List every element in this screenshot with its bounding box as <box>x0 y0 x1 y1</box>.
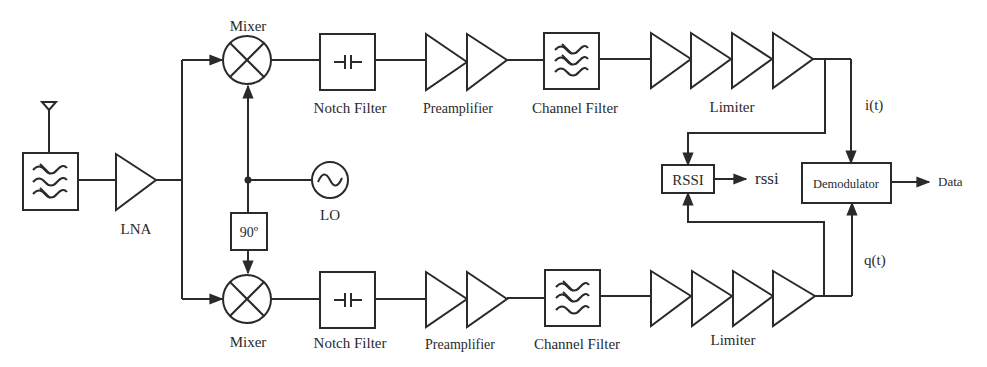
limiter-i: Limiter <box>651 33 813 115</box>
phase-shift-label: 90º <box>240 225 259 240</box>
notch-filter-i: Notch Filter <box>314 34 387 116</box>
antenna-icon <box>42 102 56 153</box>
rssi-block: RSSI <box>662 165 714 193</box>
preamplifier-q-label: Preamplifier <box>425 337 495 352</box>
notch-filter-i-label: Notch Filter <box>314 100 387 116</box>
rssi-block-label: RSSI <box>672 172 704 188</box>
preamplifier-q: Preamplifier <box>425 272 507 352</box>
demodulator-block: Demodulator <box>802 163 891 203</box>
rssi-output-label: rssi <box>755 169 779 188</box>
channel-filter-q-label: Channel Filter <box>534 336 620 352</box>
q-signal-label: q(t) <box>864 252 886 269</box>
mixer-q-label: Mixer <box>230 334 267 350</box>
notch-filter-q-label: Notch Filter <box>314 335 387 351</box>
limiter-i-label: Limiter <box>710 99 755 115</box>
mixer-i: Mixer <box>223 18 271 84</box>
lo-block: LO <box>312 162 348 223</box>
lo-label: LO <box>320 207 340 223</box>
preamplifier-i-label: Preamplifier <box>423 101 493 116</box>
limiter-q-label: Limiter <box>711 332 756 348</box>
channel-filter-i-label: Channel Filter <box>532 100 618 116</box>
channel-filter-i: Channel Filter <box>532 33 618 116</box>
limiter-q: Limiter <box>651 271 815 348</box>
receiver-block-diagram: LNA Mixer Mixer LO 90º <box>0 0 987 367</box>
preamplifier-i: Preamplifier <box>423 34 507 116</box>
data-output-label: Data <box>938 174 963 189</box>
demodulator-label: Demodulator <box>813 177 880 191</box>
notch-filter-q: Notch Filter <box>314 272 387 351</box>
lna-block: LNA <box>116 154 156 237</box>
input-filter-block <box>23 153 78 210</box>
phase-shift-block: 90º <box>231 213 267 250</box>
i-signal-label: i(t) <box>865 97 883 114</box>
mixer-q: Mixer <box>223 275 271 350</box>
channel-filter-q: Channel Filter <box>534 270 620 352</box>
lna-label: LNA <box>121 221 152 237</box>
mixer-i-label: Mixer <box>230 18 267 34</box>
